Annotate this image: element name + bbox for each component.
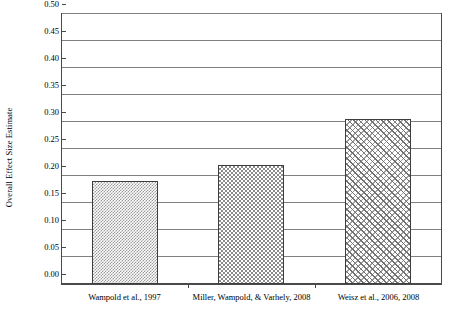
y-axis-tick: 0.15: [44, 188, 62, 198]
x-axis-category-label: Wampold et al., 1997: [88, 292, 161, 302]
y-axis-tick: 0.05: [44, 242, 62, 252]
y-axis-tick-label: 0.35: [44, 80, 62, 90]
x-axis-category-label: Weisz et al., 2006, 2008: [338, 292, 420, 302]
y-axis-tick-label: 0.10: [44, 215, 62, 225]
y-axis-title-label: Overall Effect Size Estimate: [4, 108, 44, 208]
bar: [92, 181, 158, 284]
y-axis-tick: 0.30: [44, 107, 62, 117]
y-axis-tick-label: 0.40: [44, 53, 62, 63]
y-axis-tick-label: 0.50: [44, 0, 62, 9]
y-axis-tick-label: 0.15: [44, 188, 62, 198]
y-axis-tick-label: 0.25: [44, 134, 62, 144]
plot-area: 0.000.050.100.150.200.250.300.350.400.45…: [61, 13, 442, 285]
y-axis-title: Overall Effect Size Estimate: [16, 0, 32, 315]
x-axis-labels: Wampold et al., 1997Miller, Wampold, & V…: [61, 292, 442, 308]
y-axis-tick-label: 0.05: [44, 242, 62, 252]
y-axis-tick: 0.45: [44, 26, 62, 36]
x-axis-category-label: Miller, Wampold, & Varhely, 2008: [193, 292, 311, 302]
bar: [218, 165, 284, 284]
bar: [345, 119, 411, 284]
x-axis-tick-mark: [315, 284, 316, 288]
y-axis-tick-label: 0.00: [44, 269, 62, 279]
x-axis-tick-mark: [188, 284, 189, 288]
y-axis-tick-label: 0.45: [44, 26, 62, 36]
bar-chart: Overall Effect Size Estimate 0.000.050.1…: [0, 0, 452, 315]
bar-slot: [188, 14, 314, 284]
bars-layer: [62, 14, 441, 284]
bar-slot: [62, 14, 188, 284]
y-axis-tick-mark: [62, 4, 66, 5]
y-axis-tick: 0.20: [44, 161, 62, 171]
y-axis-tick: 0.25: [44, 134, 62, 144]
y-axis-tick: 0.50: [44, 0, 62, 9]
y-axis-tick: 0.35: [44, 80, 62, 90]
y-axis-tick-label: 0.20: [44, 161, 62, 171]
bar-slot: [315, 14, 441, 284]
y-axis-tick-label: 0.30: [44, 107, 62, 117]
y-axis-tick: 0.00: [44, 269, 62, 279]
y-axis-tick: 0.10: [44, 215, 62, 225]
y-axis-tick: 0.40: [44, 53, 62, 63]
